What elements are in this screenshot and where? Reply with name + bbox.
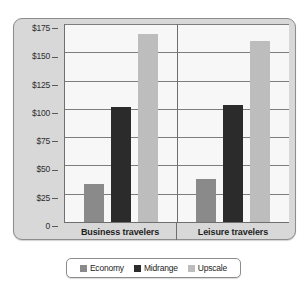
chart-figure: $175$150$125$100$75$50$250 Business trav… (0, 0, 306, 285)
y-axis-tick-mark (52, 141, 58, 142)
y-axis-tick-text: $75 (36, 136, 50, 146)
legend-item-economy: Economy (80, 263, 124, 273)
bar-upscale-leisure (250, 41, 270, 222)
y-axis-tick-mark (52, 57, 58, 58)
y-axis-tick-label: $125 (16, 80, 58, 90)
legend-swatch-icon (188, 265, 195, 272)
y-axis-tick-text: $50 (36, 164, 50, 174)
bar-upscale-business (138, 34, 158, 222)
y-axis-tick-text: $125 (32, 80, 50, 90)
x-axis-category-labels: Business travelersLeisure travelers (64, 223, 289, 240)
legend-swatch-icon (134, 265, 141, 272)
chart-legend: EconomyMidrangeUpscale (66, 258, 241, 278)
x-axis-category-label: Leisure travelers (176, 223, 289, 240)
bar-group (65, 24, 177, 222)
legend-swatch-icon (80, 265, 87, 272)
bar-economy-leisure (196, 179, 216, 222)
y-axis-tick-label: $50 (16, 164, 58, 174)
y-axis-tick-text: $100 (32, 108, 50, 118)
y-axis-tick-mark (52, 170, 58, 171)
y-axis-tick-mark (52, 28, 58, 29)
legend-item-midrange: Midrange (134, 263, 178, 273)
group-divider (177, 24, 178, 222)
y-axis-tick-text: $150 (32, 51, 50, 61)
y-axis-tick-mark (52, 113, 58, 114)
y-axis-tick-mark (52, 198, 58, 199)
y-axis-tick-label: $150 (16, 51, 58, 61)
x-axis-category-label: Business travelers (64, 223, 176, 240)
legend-label: Upscale (198, 263, 227, 273)
y-axis-tick-label: $175 (16, 23, 58, 33)
chart-panel: $175$150$125$100$75$50$250 Business trav… (13, 18, 296, 240)
legend-item-upscale: Upscale (188, 263, 227, 273)
bar-economy-business (84, 184, 104, 222)
y-axis-tick-text: 0 (45, 221, 50, 231)
y-axis-tick-label: $75 (16, 136, 58, 146)
y-axis: $175$150$125$100$75$50$250 (16, 23, 62, 223)
y-axis-tick-label: 0 (16, 221, 58, 231)
legend-label: Midrange (144, 263, 178, 273)
bar-midrange-business (111, 107, 131, 222)
plot-area (64, 24, 289, 223)
bar-group (177, 24, 289, 222)
y-axis-tick-label: $25 (16, 193, 58, 203)
y-axis-tick-text: $175 (32, 23, 50, 33)
y-axis-tick-label: $100 (16, 108, 58, 118)
y-axis-tick-mark (52, 226, 58, 227)
y-axis-tick-text: $25 (36, 193, 50, 203)
legend-label: Economy (90, 263, 124, 273)
bar-midrange-leisure (223, 105, 243, 222)
y-axis-tick-mark (52, 85, 58, 86)
